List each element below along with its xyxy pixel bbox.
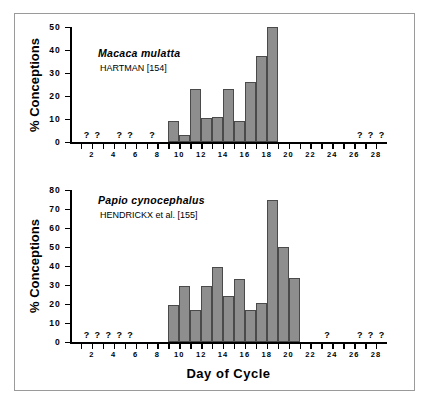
x-tick-label: 18	[261, 350, 272, 359]
no-data-marker: ?	[106, 330, 112, 340]
no-data-marker: ?	[357, 130, 363, 140]
bar	[179, 286, 190, 342]
y-tick	[65, 285, 70, 286]
y-tick-label: 40	[49, 45, 61, 55]
x-tick	[256, 144, 257, 149]
x-tick	[147, 344, 148, 349]
no-data-marker: ?	[95, 330, 101, 340]
y-tick	[65, 73, 70, 74]
x-tick-label: 26	[349, 150, 360, 159]
x-tick	[267, 144, 268, 149]
x-tick	[157, 144, 158, 149]
x-tick	[212, 344, 213, 349]
x-tick	[321, 344, 322, 349]
x-tick-label: 4	[111, 150, 116, 159]
bar	[267, 200, 278, 343]
y-tick	[65, 27, 70, 28]
y-tick	[65, 247, 70, 248]
x-tick	[179, 144, 180, 149]
x-tick	[168, 144, 169, 149]
x-tick-label: 28	[371, 150, 382, 159]
x-tick	[179, 344, 180, 349]
bar	[190, 89, 201, 142]
x-tick	[114, 344, 115, 349]
no-data-marker: ?	[116, 330, 122, 340]
y-tick	[65, 50, 70, 51]
y-tick	[65, 190, 70, 191]
x-tick-label: 24	[327, 350, 338, 359]
x-tick-label: 16	[240, 350, 251, 359]
x-tick	[256, 344, 257, 349]
x-tick	[81, 344, 82, 349]
x-tick	[190, 344, 191, 349]
y-tick	[65, 304, 70, 305]
plot-area-bottom: 0102030405060708024681012141618202224262…	[70, 190, 387, 342]
y-tick-label: 50	[49, 242, 61, 252]
x-tick-label: 8	[155, 350, 160, 359]
x-tick-label: 6	[133, 350, 138, 359]
x-tick	[157, 344, 158, 349]
no-data-marker: ?	[84, 330, 90, 340]
y-tick	[65, 323, 70, 324]
y-tick-label: 50	[49, 22, 61, 32]
figure-frame: % Conceptions Macaca mulatta HARTMAN [15…	[14, 13, 415, 391]
x-tick	[103, 344, 104, 349]
bar	[168, 305, 179, 342]
x-tick-label: 22	[305, 150, 316, 159]
x-tick-label: 14	[218, 350, 229, 359]
x-tick	[201, 344, 202, 349]
x-tick	[234, 144, 235, 149]
x-tick	[114, 144, 115, 149]
x-tick	[125, 144, 126, 149]
x-tick	[300, 144, 301, 149]
y-tick-label: 30	[49, 280, 61, 290]
x-tick	[223, 144, 224, 149]
no-data-marker: ?	[368, 330, 374, 340]
x-tick	[278, 344, 279, 349]
x-tick	[321, 144, 322, 149]
x-tick	[125, 344, 126, 349]
x-tick-label: 4	[111, 350, 116, 359]
y-axis-title-bottom: % Conceptions	[27, 219, 42, 313]
x-tick	[278, 144, 279, 149]
no-data-marker: ?	[127, 130, 133, 140]
bar	[245, 82, 256, 142]
y-tick	[65, 209, 70, 210]
x-tick-label: 18	[261, 150, 272, 159]
y-tick	[65, 142, 70, 143]
bar	[256, 303, 267, 342]
y-tick	[65, 96, 70, 97]
bar	[234, 279, 245, 342]
y-tick	[65, 342, 70, 343]
x-tick	[354, 144, 355, 149]
bar	[267, 27, 278, 142]
x-tick	[234, 344, 235, 349]
y-tick-label: 20	[49, 299, 61, 309]
x-tick	[103, 144, 104, 149]
x-axis-title: Day of Cycle	[186, 366, 270, 381]
y-tick	[65, 266, 70, 267]
bar	[168, 121, 179, 142]
x-tick	[267, 344, 268, 349]
x-tick-label: 20	[283, 150, 294, 159]
y-axis-line-top	[70, 27, 72, 144]
x-axis-line-bottom	[70, 342, 387, 344]
x-tick	[81, 144, 82, 149]
x-tick-label: 12	[196, 150, 207, 159]
no-data-marker: ?	[116, 130, 122, 140]
no-data-marker: ?	[95, 130, 101, 140]
bar	[201, 118, 212, 142]
x-tick	[289, 144, 290, 149]
y-tick-label: 80	[49, 185, 61, 195]
x-tick	[136, 144, 137, 149]
no-data-marker: ?	[127, 330, 133, 340]
no-data-marker: ?	[149, 130, 155, 140]
bar	[179, 135, 190, 142]
no-data-marker: ?	[379, 130, 385, 140]
bar	[289, 278, 300, 342]
bar	[256, 56, 267, 142]
x-tick-label: 26	[349, 350, 360, 359]
bar	[223, 89, 234, 142]
x-tick-label: 10	[174, 150, 185, 159]
x-tick	[310, 344, 311, 349]
